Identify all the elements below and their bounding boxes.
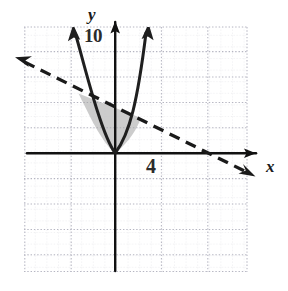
x-axis-label: x: [266, 158, 275, 175]
math-figure: y x 10 4: [0, 0, 288, 291]
graph-canvas: [0, 0, 288, 291]
y-axis-label: y: [88, 6, 96, 23]
y-axis-tick-label-10: 10: [84, 26, 102, 45]
grid: [24, 27, 248, 272]
x-axis-tick-label-4: 4: [146, 156, 156, 176]
